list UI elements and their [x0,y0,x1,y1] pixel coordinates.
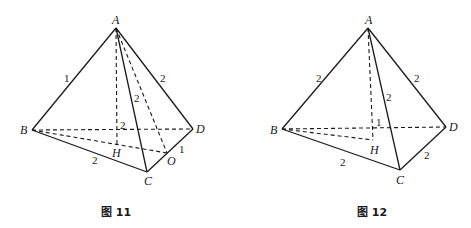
edge-bd [282,127,446,129]
vertex-label-b: B [20,123,28,137]
edge-ab [32,28,116,130]
vertex-label-o: O [167,154,176,168]
figure-12: A B C D H 2 2 2 1 2 2 [270,13,458,187]
edge-bh [282,129,373,140]
vertex-label-c: C [144,174,153,188]
edge-label-ah: 1 [376,116,382,128]
vertex-label-h: H [369,143,380,157]
edge-bo [32,130,167,153]
edge-ao [116,28,167,153]
edge-label-ab: 1 [64,72,70,84]
figure-11: A B C D H O 1 2 2 2 2 1 [20,13,205,188]
vertex-label-d: D [448,120,458,134]
edge-label-ac: 2 [134,92,140,104]
vertex-label-h: H [111,146,122,160]
vertex-label-a: A [111,13,120,27]
geometry-figures: A B C D H O 1 2 2 2 2 1 A B C D H 2 2 2 … [0,0,471,228]
edge-label-ah: 2 [120,119,126,131]
edge-label-ad: 2 [414,72,420,84]
edge-ad [116,28,193,129]
edge-cd [400,127,446,170]
vertex-label-c: C [396,173,405,187]
edge-label-ad: 2 [160,72,166,84]
edge-ab [282,28,368,129]
edge-label-bc: 2 [340,156,346,168]
figure-12-caption: 图 12 [357,203,387,219]
vertex-label-b: B [270,123,278,137]
vertex-label-a: A [364,13,373,27]
edge-label-bc: 2 [92,154,98,166]
edge-label-ac: 2 [386,91,392,103]
edge-ah [116,28,117,144]
edge-bc [32,130,147,172]
figure-11-caption: 图 11 [101,203,131,219]
edge-label-ab: 2 [316,72,322,84]
vertex-label-d: D [195,122,205,136]
edge-bd [32,129,193,130]
edge-label-cd: 2 [424,149,430,161]
edge-label-od: 1 [179,143,185,155]
